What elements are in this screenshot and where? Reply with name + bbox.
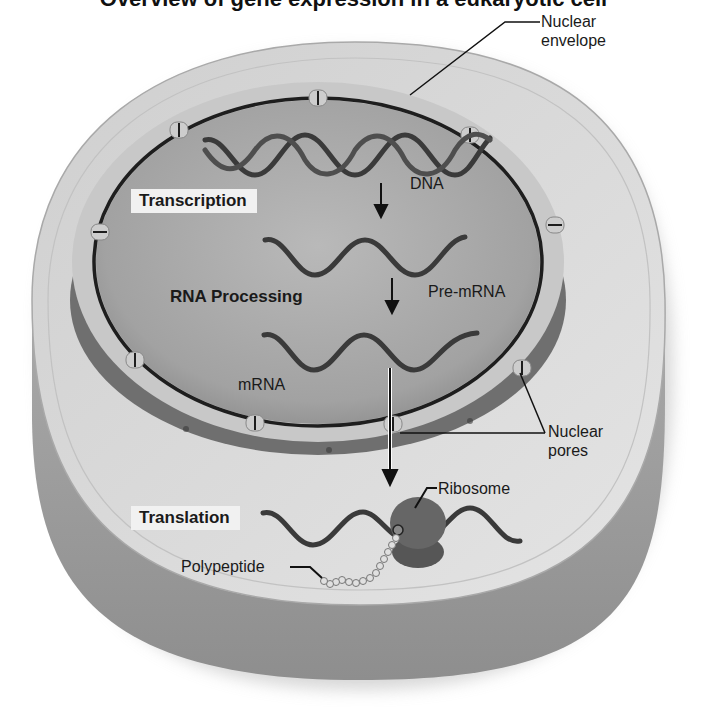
gene-expression-diagram: Overview of gene expression in a eukaryo… [0, 0, 707, 726]
nuclear-envelope-label: Nuclear envelope [541, 12, 606, 50]
nuclear-pore-icon [170, 122, 188, 138]
nuclear-pore-icon [384, 416, 402, 432]
nuclear-pore-icon [126, 352, 144, 368]
polypeptide-label: Polypeptide [181, 557, 265, 576]
nuclear-pore-icon [513, 360, 531, 376]
label-line: Nuclear [548, 422, 603, 441]
rna-processing-label: RNA Processing [170, 287, 303, 306]
pre-mrna-label: Pre-mRNA [428, 282, 505, 301]
ribosome-icon [390, 497, 446, 568]
mrna-label: mRNA [238, 375, 285, 394]
label-line: Nuclear [541, 12, 606, 31]
label-line: envelope [541, 31, 606, 50]
ribosome-label: Ribosome [438, 479, 510, 498]
nuclear-pore-icon [546, 217, 564, 233]
label-line: pores [548, 441, 603, 460]
nucleus-interior [96, 100, 540, 424]
dna-label: DNA [410, 174, 444, 193]
cell-illustration [0, 0, 707, 726]
nuclear-pores-label: Nuclear pores [548, 422, 603, 460]
transcription-label: Transcription [131, 189, 257, 213]
translation-label: Translation [131, 506, 240, 530]
nuclear-pore-icon [91, 224, 109, 240]
nuclear-pore-icon [309, 90, 327, 106]
nuclear-pore-icon [246, 415, 264, 431]
